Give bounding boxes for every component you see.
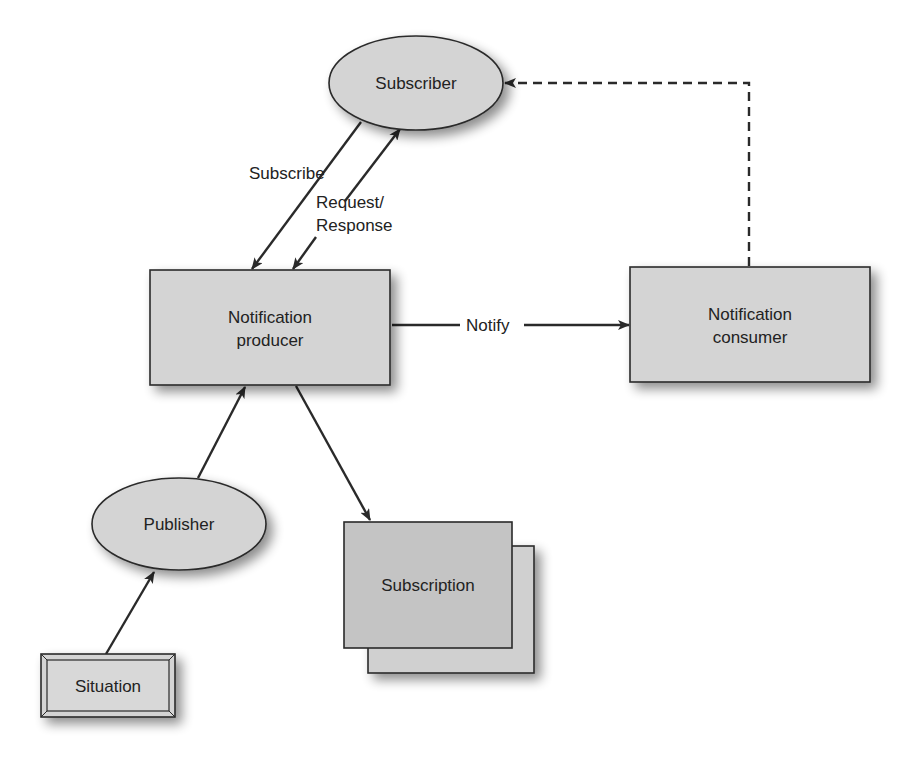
node-subscription-label: Subscription bbox=[381, 576, 475, 595]
edge-request-response-down bbox=[293, 237, 316, 269]
edge-request-response-up bbox=[345, 129, 400, 201]
diagram-canvas: Subscribe Request/ Response Notify Subsc… bbox=[0, 0, 910, 758]
node-producer-label-line1: Notification bbox=[228, 308, 312, 327]
node-consumer-label-line1: Notification bbox=[708, 305, 792, 324]
node-subscription[interactable]: Subscription bbox=[344, 522, 534, 673]
edge-consumer-to-subscriber bbox=[505, 83, 749, 266]
node-situation-label: Situation bbox=[75, 677, 141, 696]
edge-producer-to-subscription bbox=[296, 386, 370, 520]
node-publisher[interactable]: Publisher bbox=[92, 478, 266, 570]
node-producer-label-line2: producer bbox=[236, 331, 303, 350]
edge-situation-to-publisher bbox=[106, 572, 154, 654]
node-subscriber[interactable]: Subscriber bbox=[329, 36, 503, 130]
node-consumer-label-line2: consumer bbox=[713, 328, 788, 347]
node-notification-producer[interactable]: Notification producer bbox=[150, 270, 390, 385]
node-situation[interactable]: Situation bbox=[41, 654, 175, 717]
node-subscriber-label: Subscriber bbox=[375, 74, 457, 93]
edge-label-subscribe: Subscribe bbox=[249, 164, 325, 183]
edge-label-request: Request/ bbox=[316, 193, 384, 212]
node-notification-consumer[interactable]: Notification consumer bbox=[630, 267, 870, 382]
node-publisher-label: Publisher bbox=[144, 515, 215, 534]
edge-label-response: Response bbox=[316, 216, 393, 235]
edge-publisher-to-producer bbox=[198, 387, 245, 478]
edge-label-notify: Notify bbox=[466, 316, 510, 335]
